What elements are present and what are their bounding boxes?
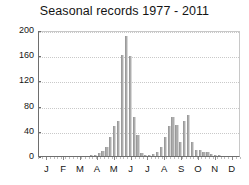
x-axis-minor-tick — [73, 157, 74, 159]
bar — [125, 36, 128, 156]
x-axis-minor-tick — [193, 157, 194, 159]
bar — [195, 150, 198, 156]
x-axis-minor-tick — [92, 157, 93, 159]
y-axis-tick-label: 200 — [4, 26, 34, 35]
bar — [214, 155, 217, 156]
x-axis-minor-tick — [116, 157, 117, 159]
x-axis-minor-tick — [190, 157, 191, 159]
x-axis-minor-tick — [217, 157, 218, 159]
x-axis-minor-tick — [228, 157, 229, 159]
bar — [101, 151, 104, 156]
y-axis-tick-mark — [38, 31, 41, 32]
bar — [140, 153, 143, 156]
bar — [179, 142, 182, 156]
bar — [164, 137, 167, 156]
x-axis-tick-mark — [232, 157, 233, 160]
chart-figure: Seasonal records 1977 - 2011 04080120160… — [0, 0, 249, 185]
bar — [117, 121, 120, 156]
x-axis-tick-mark — [97, 157, 98, 160]
x-axis-minor-tick — [135, 157, 136, 159]
x-axis-minor-tick — [205, 157, 206, 159]
x-axis-tick-mark — [114, 157, 115, 160]
x-axis-minor-tick — [186, 157, 187, 159]
y-axis-tick-label: 120 — [4, 76, 34, 85]
x-axis-minor-tick — [54, 157, 55, 159]
x-axis-tick-mark — [164, 157, 165, 160]
bar — [218, 155, 221, 156]
y-axis-tick-label: 80 — [4, 102, 34, 111]
x-axis-minor-tick — [158, 157, 159, 159]
bar — [113, 126, 116, 156]
x-axis-minor-tick — [112, 157, 113, 159]
bar — [160, 147, 163, 156]
bar — [171, 117, 174, 156]
x-axis-minor-tick — [170, 157, 171, 159]
bar — [144, 155, 147, 156]
x-axis-minor-tick — [209, 157, 210, 159]
bar — [168, 126, 171, 156]
y-axis-tick-mark — [38, 107, 41, 108]
bar — [121, 55, 124, 156]
x-axis-tick-mark — [46, 157, 47, 160]
bar — [202, 152, 205, 156]
x-axis-minor-tick — [104, 157, 105, 159]
bar — [152, 154, 155, 156]
bar — [210, 154, 213, 156]
x-axis-minor-tick — [155, 157, 156, 159]
x-axis-minor-tick — [123, 157, 124, 159]
x-axis-minor-tick — [65, 157, 66, 159]
bar-series — [39, 32, 239, 156]
bar — [148, 155, 151, 156]
x-axis-minor-tick — [38, 157, 39, 159]
x-axis-tick-mark — [181, 157, 182, 160]
x-axis-minor-tick — [143, 157, 144, 159]
x-axis-tick-mark — [80, 157, 81, 160]
x-axis-minor-tick — [139, 157, 140, 159]
bar — [191, 142, 194, 156]
bar — [156, 152, 159, 156]
bar — [109, 137, 112, 156]
x-axis-minor-tick — [201, 157, 202, 159]
x-axis-minor-tick — [108, 157, 109, 159]
x-axis-minor-tick — [69, 157, 70, 159]
y-axis-tick-mark — [38, 56, 41, 57]
y-axis-tick-label: 0 — [4, 152, 34, 161]
x-axis-minor-tick — [61, 157, 62, 159]
x-axis-tick-label: D — [222, 163, 242, 174]
bar — [199, 150, 202, 156]
y-axis-tick-mark — [38, 81, 41, 82]
bar — [206, 152, 209, 156]
x-axis-minor-tick — [151, 157, 152, 159]
x-axis-minor-tick — [174, 157, 175, 159]
bar — [98, 153, 101, 156]
x-axis-minor-tick — [178, 157, 179, 159]
x-axis-minor-tick — [120, 157, 121, 159]
bar — [136, 135, 139, 156]
bar — [133, 117, 136, 156]
x-axis-minor-tick — [166, 157, 167, 159]
bar — [175, 125, 178, 157]
chart-title: Seasonal records 1977 - 2011 — [0, 4, 249, 18]
x-axis-tick-mark — [215, 157, 216, 160]
y-axis-tick-mark — [38, 132, 41, 133]
x-axis-minor-tick — [236, 157, 237, 159]
x-axis-minor-tick — [77, 157, 78, 159]
x-axis-tick-mark — [63, 157, 64, 160]
x-axis-minor-tick — [50, 157, 51, 159]
bar — [129, 56, 132, 156]
bar — [94, 155, 97, 156]
x-axis-minor-tick — [89, 157, 90, 159]
x-axis-minor-tick — [162, 157, 163, 159]
x-axis-minor-tick — [240, 157, 241, 159]
x-axis-tick-mark — [198, 157, 199, 160]
x-axis-tick-mark — [131, 157, 132, 160]
bar — [105, 147, 108, 156]
x-axis-minor-tick — [57, 157, 58, 159]
x-axis-minor-tick — [85, 157, 86, 159]
y-axis-tick-label: 160 — [4, 51, 34, 60]
x-axis-minor-tick — [127, 157, 128, 159]
x-axis-minor-tick — [221, 157, 222, 159]
x-axis-minor-tick — [100, 157, 101, 159]
bar — [90, 155, 93, 156]
x-axis-minor-tick — [42, 157, 43, 159]
